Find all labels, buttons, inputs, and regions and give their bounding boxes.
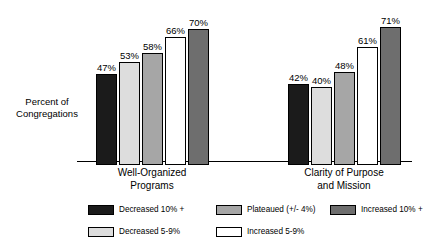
category-label-clarity-of-purpose-and-mission: Clarity of Purpose and Mission	[276, 167, 412, 192]
bar-value-label: 48%	[330, 60, 359, 71]
bar-wrap: 71%	[380, 4, 401, 166]
bar-plateaued[interactable]	[142, 53, 163, 166]
legend-swatch-icon	[88, 205, 114, 216]
bar-decreased-10-plus[interactable]	[96, 74, 117, 165]
bar-decreased-5-9[interactable]	[311, 87, 332, 165]
category-label-line-1: Clarity of Purpose	[276, 167, 412, 180]
bar-value-label: 53%	[115, 50, 144, 61]
legend-item-label: Increased 5-9%	[247, 227, 304, 237]
bar-wrap: 61%	[357, 4, 378, 166]
legend-item-increased-5-9[interactable]: Increased 5-9%	[216, 225, 304, 239]
category-label-line-1: Well-Organized	[84, 167, 220, 180]
bar-group-well-organized-programs: 47% 53% 58% 66% 70%	[96, 4, 208, 166]
bar-value-label: 71%	[376, 15, 405, 26]
plot-area: 47% 53% 58% 66% 70% 42%	[0, 0, 437, 166]
bar-wrap: 48%	[334, 4, 355, 166]
bar-plateaued[interactable]	[334, 72, 355, 165]
bar-wrap: 70%	[188, 4, 209, 166]
bar-decreased-10-plus[interactable]	[288, 84, 309, 165]
legend-swatch-icon	[216, 205, 242, 216]
legend-swatch-icon	[88, 227, 114, 238]
bar-increased-5-9[interactable]	[165, 37, 186, 165]
chart-legend: Decreased 10% + Decreased 5-9% Plateaued…	[0, 203, 437, 247]
bar-value-label: 70%	[184, 17, 213, 28]
bar-increased-10-plus[interactable]	[380, 27, 401, 165]
legend-item-plateaued[interactable]: Plateaued (+/- 4%)	[216, 203, 316, 217]
legend-item-label: Decreased 10% +	[119, 205, 184, 215]
bar-wrap: 58%	[142, 4, 163, 166]
bar-value-label: 40%	[307, 75, 336, 86]
bar-wrap: 47%	[96, 4, 117, 166]
legend-swatch-icon	[216, 227, 242, 238]
bar-value-label: 58%	[138, 41, 167, 52]
bar-chart: Percent of Congregations 47% 53% 58% 66%	[0, 0, 437, 250]
bar-increased-10-plus[interactable]	[188, 29, 209, 165]
legend-item-increased-10-plus[interactable]: Increased 10% +	[330, 203, 423, 217]
category-label-well-organized-programs: Well-Organized Programs	[84, 167, 220, 192]
bar-value-label: 47%	[92, 62, 121, 73]
bar-wrap: 66%	[165, 4, 186, 166]
bar-decreased-5-9[interactable]	[119, 62, 140, 165]
legend-item-decreased-5-9[interactable]: Decreased 5-9%	[88, 225, 180, 239]
bar-increased-5-9[interactable]	[357, 47, 378, 165]
bar-wrap: 42%	[288, 4, 309, 166]
legend-item-label: Plateaued (+/- 4%)	[247, 205, 316, 215]
bar-value-label: 61%	[353, 35, 382, 46]
legend-item-label: Decreased 5-9%	[119, 227, 180, 237]
bar-wrap: 40%	[311, 4, 332, 166]
category-label-line-2: and Mission	[276, 180, 412, 193]
bar-group-clarity-of-purpose-and-mission: 42% 40% 48% 61% 71%	[288, 4, 400, 166]
category-label-line-2: Programs	[84, 180, 220, 193]
legend-item-decreased-10-plus[interactable]: Decreased 10% +	[88, 203, 184, 217]
bar-wrap: 53%	[119, 4, 140, 166]
legend-item-label: Increased 10% +	[361, 205, 423, 215]
legend-swatch-icon	[330, 205, 356, 216]
